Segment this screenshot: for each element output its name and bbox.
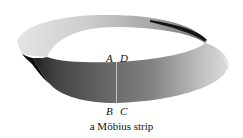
mobius-strip-illustration bbox=[0, 0, 243, 138]
label-d: D bbox=[120, 53, 128, 64]
label-a: A bbox=[106, 53, 113, 64]
label-c: C bbox=[120, 106, 127, 117]
back-band-surface bbox=[17, 15, 207, 57]
label-b: B bbox=[106, 106, 113, 117]
figure-caption: a Möbius strip bbox=[0, 121, 243, 132]
front-band-surface bbox=[33, 43, 228, 103]
mobius-strip-figure: A D B C a Möbius strip bbox=[0, 0, 243, 138]
